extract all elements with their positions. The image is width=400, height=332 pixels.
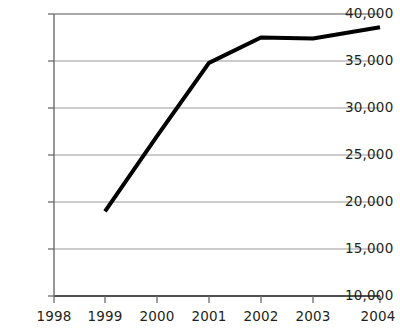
y-axis-ticks [48, 14, 54, 296]
x-axis-ticks [54, 296, 380, 303]
